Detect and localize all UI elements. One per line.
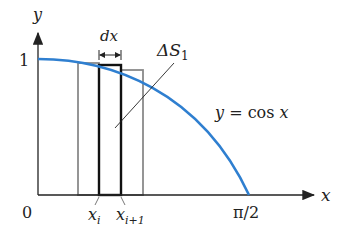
y-tick-one: 1 [19,51,29,70]
area-strip [99,65,121,195]
diagram-canvas: y x 1 0 π/2 dx ΔS1 y = cos x xi xi+1 [0,0,349,243]
y-axis-label: y [32,5,43,24]
xi-label: xi [88,205,101,227]
curve-label: y = cos x [214,103,289,122]
neighbor-strip-left [78,63,99,195]
dx-label: dx [100,27,119,45]
x-tick-pi-over-2: π/2 [233,203,259,222]
xi1-label: xi+1 [116,205,145,227]
neighbor-strip-right [121,70,143,195]
xi-leader [95,197,99,205]
x-axis-label: x [321,185,331,205]
cosine-area-diagram: y x 1 0 π/2 dx ΔS1 y = cos x xi xi+1 [0,0,349,243]
origin-label: 0 [22,203,32,222]
xi1-leader [121,197,125,205]
area-label: ΔS1 [156,40,189,63]
